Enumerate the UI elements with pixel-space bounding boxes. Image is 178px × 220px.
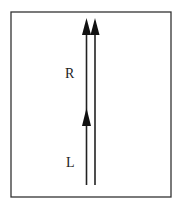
label-l: L — [66, 155, 75, 170]
left-line-mid-arrow-icon — [82, 108, 91, 126]
right-line-top-arrow-icon — [91, 18, 100, 35]
diagram-canvas: R L — [0, 0, 178, 220]
label-r: R — [65, 66, 75, 81]
frame-border — [11, 12, 171, 197]
left-line-top-arrow-icon — [82, 18, 91, 35]
